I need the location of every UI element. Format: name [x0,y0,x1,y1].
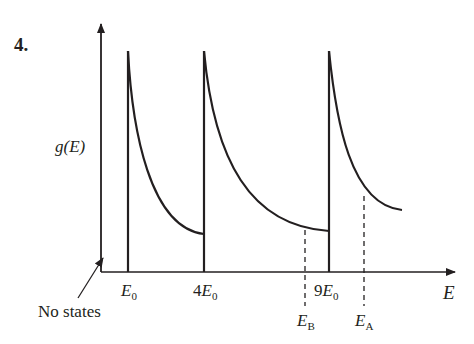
tick-label-e0: E0 [121,282,137,299]
marker-label-eb: EB [297,312,315,329]
no-states-arrow [78,258,103,298]
tick-label-9e0: 9E0 [314,282,338,299]
band-curve-2 [204,51,329,231]
x-axis-label: E [443,283,455,302]
marker-label-ea: EA [355,312,373,329]
density-of-states-diagram: 4. g(E) E No states E0 4E0 9E0 EB EA [0,0,474,344]
y-axis-label: g(E) [55,138,85,155]
no-states-label: No states [38,303,101,320]
band-curve-3 [329,51,402,210]
diagram-canvas [0,0,474,344]
tick-label-4e0: 4E0 [193,282,217,299]
band-curve-1 [128,51,204,234]
problem-number: 4. [14,34,28,56]
